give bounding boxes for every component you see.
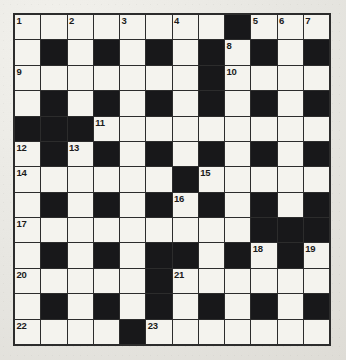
grid-cell[interactable]	[68, 294, 93, 318]
grid-cell[interactable]	[146, 15, 171, 39]
grid-cell[interactable]	[278, 320, 303, 344]
grid-cell[interactable]	[68, 66, 93, 90]
grid-cell[interactable]	[199, 218, 224, 242]
grid-cell[interactable]	[173, 40, 198, 64]
grid-cell[interactable]	[251, 320, 276, 344]
grid-cell[interactable]: 5	[251, 15, 276, 39]
grid-cell[interactable]	[68, 91, 93, 115]
grid-cell[interactable]	[120, 91, 145, 115]
grid-cell[interactable]	[225, 320, 250, 344]
grid-cell[interactable]	[225, 269, 250, 293]
grid-cell[interactable]	[15, 40, 40, 64]
grid-cell[interactable]: 15	[199, 167, 224, 191]
grid-cell[interactable]: 16	[173, 193, 198, 217]
grid-cell[interactable]: 2	[68, 15, 93, 39]
grid-cell[interactable]	[15, 243, 40, 267]
grid-cell[interactable]	[225, 218, 250, 242]
grid-cell[interactable]	[146, 167, 171, 191]
grid-cell[interactable]	[120, 66, 145, 90]
grid-cell[interactable]	[94, 269, 119, 293]
grid-cell[interactable]	[251, 167, 276, 191]
grid-cell[interactable]: 14	[15, 167, 40, 191]
grid-cell[interactable]	[225, 193, 250, 217]
grid-cell[interactable]: 1	[15, 15, 40, 39]
grid-cell[interactable]	[278, 142, 303, 166]
grid-cell[interactable]	[15, 193, 40, 217]
grid-cell[interactable]	[120, 40, 145, 64]
grid-cell[interactable]	[120, 269, 145, 293]
grid-cell[interactable]	[68, 243, 93, 267]
grid-cell[interactable]	[278, 193, 303, 217]
grid-cell[interactable]	[304, 167, 329, 191]
grid-cell[interactable]: 13	[68, 142, 93, 166]
grid-cell[interactable]	[199, 243, 224, 267]
grid-cell[interactable]	[173, 294, 198, 318]
grid-cell[interactable]	[15, 294, 40, 318]
grid-cell[interactable]	[304, 269, 329, 293]
grid-cell[interactable]	[68, 320, 93, 344]
grid-cell[interactable]: 20	[15, 269, 40, 293]
grid-cell[interactable]	[225, 91, 250, 115]
grid-cell[interactable]	[146, 117, 171, 141]
grid-cell[interactable]	[278, 167, 303, 191]
grid-cell[interactable]: 11	[94, 117, 119, 141]
grid-cell[interactable]: 9	[15, 66, 40, 90]
grid-cell[interactable]	[94, 66, 119, 90]
grid-cell[interactable]	[304, 66, 329, 90]
grid-cell[interactable]	[173, 117, 198, 141]
grid-cell[interactable]: 4	[173, 15, 198, 39]
grid-cell[interactable]: 6	[278, 15, 303, 39]
grid-cell[interactable]	[41, 167, 66, 191]
grid-cell[interactable]	[68, 40, 93, 64]
grid-cell[interactable]	[173, 218, 198, 242]
grid-cell[interactable]	[41, 15, 66, 39]
grid-cell[interactable]: 7	[304, 15, 329, 39]
grid-cell[interactable]	[304, 117, 329, 141]
grid-cell[interactable]	[173, 91, 198, 115]
grid-cell[interactable]	[68, 167, 93, 191]
grid-cell[interactable]	[278, 40, 303, 64]
grid-cell[interactable]	[146, 218, 171, 242]
grid-cell[interactable]: 18	[251, 243, 276, 267]
grid-cell[interactable]: 17	[15, 218, 40, 242]
grid-cell[interactable]	[68, 218, 93, 242]
grid-cell[interactable]: 12	[15, 142, 40, 166]
grid-cell[interactable]	[68, 269, 93, 293]
grid-cell[interactable]	[199, 269, 224, 293]
grid-cell[interactable]	[304, 320, 329, 344]
grid-cell[interactable]	[225, 167, 250, 191]
grid-cell[interactable]	[278, 117, 303, 141]
grid-cell[interactable]	[199, 117, 224, 141]
grid-cell[interactable]: 3	[120, 15, 145, 39]
grid-cell[interactable]	[68, 193, 93, 217]
grid-cell[interactable]	[41, 218, 66, 242]
grid-cell[interactable]: 10	[225, 66, 250, 90]
grid-cell[interactable]	[120, 117, 145, 141]
grid-cell[interactable]: 8	[225, 40, 250, 64]
grid-cell[interactable]	[225, 294, 250, 318]
grid-cell[interactable]	[278, 66, 303, 90]
grid-cell[interactable]	[251, 117, 276, 141]
grid-cell[interactable]	[173, 320, 198, 344]
grid-cell[interactable]	[251, 66, 276, 90]
grid-cell[interactable]: 19	[304, 243, 329, 267]
grid-cell[interactable]	[41, 269, 66, 293]
grid-cell[interactable]	[278, 269, 303, 293]
grid-cell[interactable]	[94, 15, 119, 39]
grid-cell[interactable]	[120, 218, 145, 242]
grid-cell[interactable]	[41, 320, 66, 344]
grid-cell[interactable]	[278, 294, 303, 318]
grid-cell[interactable]	[94, 320, 119, 344]
grid-cell[interactable]	[120, 167, 145, 191]
grid-cell[interactable]	[120, 142, 145, 166]
grid-cell[interactable]: 21	[173, 269, 198, 293]
grid-cell[interactable]	[173, 66, 198, 90]
grid-cell[interactable]	[199, 15, 224, 39]
grid-cell[interactable]	[225, 142, 250, 166]
grid-cell[interactable]	[225, 117, 250, 141]
grid-cell[interactable]	[94, 218, 119, 242]
grid-cell[interactable]	[15, 91, 40, 115]
grid-cell[interactable]	[278, 91, 303, 115]
grid-cell[interactable]	[251, 269, 276, 293]
grid-cell[interactable]	[41, 66, 66, 90]
